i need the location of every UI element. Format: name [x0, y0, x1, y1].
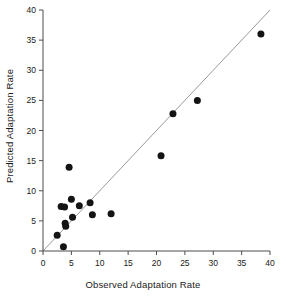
data-point	[76, 202, 83, 209]
y-tick-label: 20	[27, 126, 37, 136]
x-tick-label: 0	[41, 258, 46, 268]
data-point	[69, 214, 76, 221]
y-axis-title-container: Predicted Adaptation Rate	[0, 0, 18, 251]
data-point	[61, 204, 68, 211]
data-point	[60, 243, 67, 250]
y-tick-label: 0	[31, 246, 36, 256]
one-to-one-reference-line	[43, 10, 270, 251]
x-tick-label: 40	[265, 258, 275, 268]
x-axis-title: Observed Adaptation Rate	[0, 279, 286, 290]
x-tick-label: 10	[95, 258, 105, 268]
y-tick-label: 35	[27, 35, 37, 45]
data-point	[66, 164, 73, 171]
x-tick-label: 30	[209, 258, 219, 268]
data-point	[158, 152, 165, 159]
y-tick-label: 30	[27, 65, 37, 75]
data-points	[54, 31, 265, 251]
x-tick-label: 35	[237, 258, 247, 268]
y-tick-label: 15	[27, 156, 37, 166]
y-tick-label: 10	[27, 186, 37, 196]
data-point	[62, 223, 69, 230]
data-point	[54, 232, 61, 239]
data-point	[108, 210, 115, 217]
y-axis-ticks: 0510152025303540	[27, 5, 43, 256]
x-tick-label: 20	[152, 258, 162, 268]
x-tick-label: 5	[69, 258, 74, 268]
scatter-plot-figure: 0510152025303540 0510152025303540 Predic…	[0, 0, 286, 298]
x-tick-label: 25	[180, 258, 190, 268]
y-axis-title: Predicted Adaptation Rate	[4, 68, 15, 182]
y-tick-label: 5	[31, 216, 36, 226]
y-tick-label: 40	[27, 5, 37, 15]
x-tick-label: 15	[123, 258, 133, 268]
data-point	[257, 31, 264, 38]
data-point	[87, 199, 94, 206]
data-point	[194, 97, 201, 104]
one-to-one-line	[43, 10, 270, 251]
plot-canvas: 0510152025303540 0510152025303540	[0, 0, 286, 298]
x-axis-ticks: 0510152025303540	[41, 251, 275, 268]
data-point	[89, 211, 96, 218]
data-point	[169, 110, 176, 117]
y-tick-label: 25	[27, 95, 37, 105]
data-point	[68, 196, 75, 203]
